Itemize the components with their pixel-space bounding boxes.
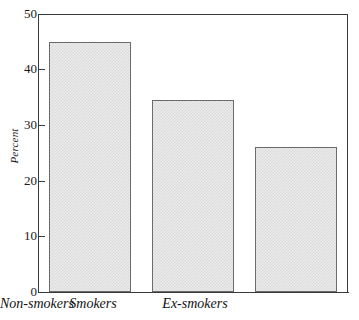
y-tick-label-40: 40: [0, 62, 37, 75]
bar-chart: Percent 0 10 20 30 40 50 Smokers Ex-smok…: [0, 0, 359, 320]
y-tick-mark-50: [39, 14, 45, 15]
y-tick-mark-20: [39, 181, 45, 182]
y-tick-label-30: 30: [0, 118, 37, 131]
bar-non-smokers: [255, 147, 337, 292]
bar-smokers: [49, 42, 131, 292]
y-tick-mark-10: [39, 236, 45, 237]
x-axis-baseline: [38, 292, 349, 293]
y-tick-label-20: 20: [0, 174, 37, 187]
y-tick-label-10: 10: [0, 229, 37, 242]
y-tick-mark-40: [39, 69, 45, 70]
bar-ex-smokers: [152, 100, 234, 292]
x-tick-label-ex-smokers: Ex-smokers: [144, 296, 246, 313]
y-tick-mark-30: [39, 125, 45, 126]
y-tick-mark-0: [39, 292, 45, 293]
x-tick-label-non-smokers: Non-smokers: [0, 296, 74, 313]
y-tick-label-50: 50: [0, 7, 37, 20]
